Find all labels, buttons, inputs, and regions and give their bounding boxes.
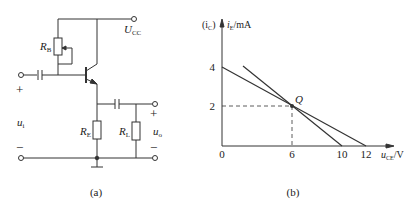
rl-resistor [132,122,140,140]
transistor-collector [86,64,97,71]
output-plus-sign: + [150,106,157,121]
wiper-arrow-icon [62,46,66,50]
caption-b: (b) [287,186,300,199]
input-terminal-minus [19,156,24,161]
q-label: Q [295,93,303,105]
output-terminal-minus [153,156,158,161]
ucc-label: UCC [124,23,142,37]
x-tick-6: 6 [289,148,295,160]
y-axis-arrow-icon [220,19,224,27]
rb-label: RB [39,40,52,54]
input-minus-sign: − [16,140,23,155]
emitter-arrow-icon [90,79,97,84]
uo-label: uo [153,125,163,139]
input-plus-sign: + [16,82,23,97]
ui-label: ui [17,116,25,130]
y-axis-label: iE/mA [227,19,252,31]
q-point [290,104,294,108]
y-tick-4: 4 [210,61,216,73]
figure: UCC RB RE RL ui uo + − + − (a) (iC) iE/m… [0,0,404,209]
re-label: RE [79,125,91,139]
output-minus-sign: − [150,140,157,155]
x-axis-label: uCE/V [381,149,404,161]
ucc-terminal [132,17,137,22]
caption-a: (a) [90,186,103,199]
y-tick-2: 2 [210,100,216,112]
x-axis-arrow-icon [386,144,394,148]
load-line-chart [220,19,394,148]
x-tick-12: 12 [361,148,372,160]
y-axis-paren-label: (iC) [202,19,215,31]
input-terminal [19,73,24,78]
rb-wiper [63,48,72,64]
x-tick-10: 10 [337,148,349,160]
x-tick-0: 0 [219,148,225,160]
rl-label: RL [118,125,130,139]
rb-resistor [54,38,62,55]
re-resistor [93,121,101,139]
